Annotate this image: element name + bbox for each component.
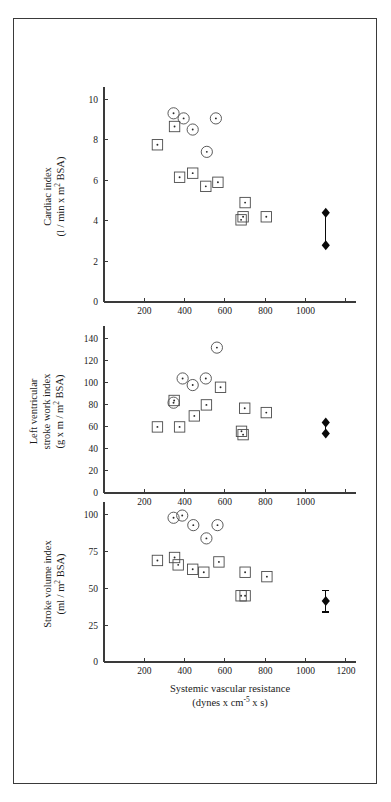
circle-marker-center-dot-middle-0 [216, 347, 218, 349]
y-tick-label-top-2: 4 [93, 216, 98, 226]
y-tick-label-middle-5: 100 [84, 378, 99, 388]
circle-marker-center-dot-bottom-4 [205, 537, 207, 539]
circle-marker-center-dot-bottom-1 [181, 515, 183, 517]
series-summary-diamond-bottom [322, 591, 330, 612]
x-tick-label-top-2: 600 [218, 306, 233, 316]
x-tick-label-middle-0: 200 [137, 497, 152, 507]
square-marker-center-dot-top-8 [242, 216, 244, 218]
square-marker-center-dot-middle-5 [220, 386, 222, 388]
x-tick-label-top-4: 1000 [296, 306, 315, 316]
y-axis-title-middle-line-1: stroke work index [41, 373, 52, 450]
series-square-group-top [152, 121, 271, 225]
square-marker-center-dot-top-1 [174, 126, 176, 128]
circle-marker-center-dot-top-0 [173, 112, 175, 114]
x-axis-title-line-1: Systemic vascular resistance [170, 683, 290, 694]
y-tick-label-top-5: 10 [89, 95, 99, 105]
x-tick-label-bottom-0: 200 [137, 666, 152, 676]
circle-marker-center-dot-middle-4 [173, 402, 175, 404]
y-tick-label-middle-2: 40 [89, 444, 99, 454]
square-marker-center-dot-middle-7 [265, 412, 267, 414]
panel-middle: 0204060801001201402004006008001000 [84, 326, 356, 507]
diamond-marker-top-0 [322, 208, 330, 218]
x-tick-label-top-0: 200 [137, 306, 152, 316]
circle-marker-center-dot-middle-2 [192, 384, 194, 386]
three-panel-scatter-chart: 0246810200400600800100002040608010012014… [0, 0, 391, 802]
y-axis-title-bottom-line-1: (ml / m2 BSA) [52, 553, 67, 615]
x-tick-label-middle-2: 600 [218, 497, 233, 507]
diamond-marker-top-1 [322, 240, 330, 250]
series-summary-diamonds-middle [322, 418, 330, 439]
x-tick-label-bottom-1: 400 [178, 666, 193, 676]
y-axis-title-middle-line-2: (g x m / m2 BSA) [52, 374, 67, 449]
circle-marker-center-dot-middle-3 [205, 378, 207, 380]
square-marker-center-dot-top-3 [192, 172, 194, 174]
y-tick-label-top-4: 8 [93, 135, 98, 145]
square-marker-center-dot-top-0 [156, 144, 158, 146]
y-axis-title-middle: Left ventricularstroke work index(g x m … [28, 373, 66, 450]
square-marker-center-dot-bottom-6 [244, 571, 246, 573]
square-marker-center-dot-middle-1 [156, 426, 158, 428]
square-marker-center-dot-top-2 [179, 176, 181, 178]
series-circle-group-bottom [168, 510, 223, 544]
square-marker-center-dot-middle-8 [241, 430, 243, 432]
circle-marker-center-dot-top-3 [215, 117, 217, 119]
circle-marker-center-dot-bottom-3 [217, 524, 219, 526]
circle-marker-center-dot-top-4 [206, 151, 208, 153]
square-marker-center-dot-top-5 [217, 181, 219, 183]
circle-marker-center-dot-top-1 [183, 117, 185, 119]
circle-marker-center-dot-middle-1 [182, 378, 184, 380]
diamond-marker-bottom-0 [322, 596, 330, 606]
y-axis-title-bottom: Stroke volume index(ml / m2 BSA) [42, 540, 67, 628]
square-marker-center-dot-top-9 [265, 216, 267, 218]
y-tick-label-bottom-3: 75 [89, 547, 99, 557]
circle-marker-center-dot-bottom-2 [192, 524, 194, 526]
diamond-marker-middle-0 [322, 418, 330, 428]
y-tick-label-bottom-1: 25 [89, 621, 99, 631]
x-tick-label-bottom-4: 1000 [296, 666, 315, 676]
y-tick-label-middle-1: 20 [89, 466, 99, 476]
y-tick-label-bottom-2: 50 [89, 584, 99, 594]
x-tick-label-middle-4: 1000 [296, 497, 315, 507]
y-tick-label-top-3: 6 [93, 176, 98, 186]
x-axis-title: Systemic vascular resistance(dynes x cm-… [170, 683, 290, 709]
y-axis-title-top-line-0: Cardiac index [42, 166, 53, 225]
square-marker-center-dot-middle-6 [244, 407, 246, 409]
x-tick-label-bottom-2: 600 [218, 666, 233, 676]
panel-bottom: 025507510020040060080010001200 [84, 502, 356, 676]
x-tick-label-top-1: 400 [178, 306, 193, 316]
y-axis-title-bottom-line-0: Stroke volume index [42, 540, 53, 628]
square-marker-center-dot-bottom-9 [244, 595, 246, 597]
y-tick-label-bottom-4: 100 [84, 510, 99, 520]
square-marker-center-dot-bottom-8 [240, 595, 242, 597]
x-axis-title-line-2: (dynes x cm-5 x s) [192, 695, 268, 710]
square-marker-center-dot-middle-2 [179, 426, 181, 428]
figure-root: 0246810200400600800100002040608010012014… [0, 0, 391, 802]
y-tick-label-top-0: 0 [93, 297, 98, 307]
series-square-group-middle [152, 382, 271, 440]
panel-top: 02468102004006008001000 [89, 87, 357, 316]
series-circle-group-top [168, 108, 222, 158]
series-square-group-bottom [152, 552, 272, 601]
square-marker-center-dot-bottom-2 [177, 564, 179, 566]
square-marker-center-dot-middle-9 [242, 434, 244, 436]
x-tick-label-top-3: 800 [258, 306, 273, 316]
square-marker-center-dot-bottom-0 [156, 560, 158, 562]
x-tick-label-bottom-5: 1200 [336, 666, 355, 676]
square-marker-center-dot-middle-4 [205, 404, 207, 406]
y-tick-label-middle-6: 120 [84, 356, 99, 366]
y-tick-label-middle-4: 80 [89, 400, 99, 410]
y-axis-title-top-line-1: (l / min x m2 BSA) [52, 156, 67, 236]
x-tick-label-middle-1: 400 [178, 497, 193, 507]
y-axis-title-middle-line-0: Left ventricular [28, 378, 39, 444]
y-tick-label-middle-0: 0 [93, 488, 98, 498]
square-marker-center-dot-top-4 [205, 185, 207, 187]
square-marker-center-dot-middle-0 [173, 400, 175, 402]
square-marker-center-dot-bottom-5 [218, 561, 220, 563]
x-tick-label-middle-3: 800 [258, 497, 273, 507]
series-circle-group-middle [168, 342, 223, 408]
square-marker-center-dot-top-6 [244, 202, 246, 204]
circle-marker-center-dot-top-2 [192, 129, 194, 131]
y-tick-label-middle-7: 140 [84, 334, 99, 344]
x-tick-label-bottom-3: 800 [258, 666, 273, 676]
y-tick-label-bottom-0: 0 [93, 657, 98, 667]
